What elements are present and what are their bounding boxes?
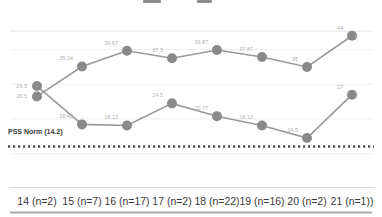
data-point-label: 18.43 — [59, 113, 73, 119]
data-point — [32, 81, 42, 91]
data-point-label: 35 — [292, 56, 298, 62]
data-point-label: 35.14 — [59, 55, 73, 61]
data-point-label: 37.5 — [152, 47, 163, 53]
data-point — [122, 120, 132, 130]
data-point — [167, 53, 177, 63]
data-point-label: 26.5 — [16, 93, 27, 99]
data-point — [32, 91, 42, 101]
pss-line-chart: 26.535.1439.6737.539.8737.87354429.518.4… — [0, 0, 382, 217]
data-point — [302, 133, 312, 143]
data-point-label: 39.67 — [104, 40, 118, 46]
data-point-label: 37.87 — [239, 46, 253, 52]
data-point-label: 27 — [337, 84, 343, 90]
data-point-label: 39.87 — [194, 39, 208, 45]
data-point — [212, 45, 222, 55]
lower-series-line — [37, 86, 352, 138]
data-point — [167, 98, 177, 108]
data-point-label: 20.77 — [194, 105, 208, 111]
chart-canvas: 26.535.1439.6737.539.8737.87354429.518.4… — [0, 0, 382, 217]
data-point — [302, 62, 312, 72]
data-point — [122, 46, 132, 56]
data-point-label: 44 — [337, 25, 343, 31]
data-point — [77, 119, 87, 129]
data-point — [212, 111, 222, 121]
data-point — [257, 52, 267, 62]
data-point — [257, 120, 267, 130]
data-point — [77, 61, 87, 71]
data-point-label: 24.5 — [152, 92, 163, 98]
data-point — [347, 31, 357, 41]
data-point-label: 14.5 — [287, 127, 298, 133]
data-point-label: 18.12 — [104, 114, 118, 120]
pss-norm-label: PSS Norm (14.2) — [8, 128, 62, 135]
data-point — [347, 90, 357, 100]
data-point-label: 29.5 — [16, 83, 27, 89]
data-point-label: 18.12 — [239, 114, 253, 120]
